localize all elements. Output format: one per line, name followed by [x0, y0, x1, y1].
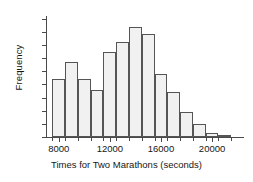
x-tick-mark-minor — [180, 138, 181, 141]
x-tick-mark — [59, 138, 60, 142]
x-tick-label: 20000 — [199, 144, 225, 154]
x-tick-mark-minor — [142, 138, 143, 141]
x-tick-mark-minor — [206, 138, 207, 141]
y-tick-mark — [42, 58, 46, 59]
x-axis-label: Times for Two Marathons (seconds) — [0, 159, 253, 170]
x-tick-mark-minor — [78, 138, 79, 141]
x-axis-tick-labels: 8000120001600020000 — [0, 0, 253, 182]
x-tick-mark-minor — [231, 138, 232, 141]
x-tick-label: 16000 — [148, 144, 174, 154]
x-tick-mark — [212, 138, 213, 142]
x-tick-label: 12000 — [97, 144, 123, 154]
x-tick-mark — [161, 138, 162, 142]
y-tick-mark — [42, 45, 46, 46]
y-tick-mark — [42, 84, 46, 85]
x-tick-mark — [110, 138, 111, 142]
x-tick-mark-minor — [129, 138, 130, 141]
y-tick-mark — [42, 32, 46, 33]
y-tick-mark — [42, 124, 46, 125]
x-tick-mark-minor — [167, 138, 168, 141]
y-tick-mark — [42, 19, 46, 20]
x-tick-label: 8000 — [48, 144, 69, 154]
y-tick-mark — [42, 111, 46, 112]
x-tick-mark-minor — [65, 138, 66, 141]
y-tick-mark — [42, 137, 46, 138]
x-tick-mark-minor — [52, 138, 53, 141]
x-tick-mark-minor — [103, 138, 104, 141]
y-tick-mark — [42, 71, 46, 72]
x-tick-mark-minor — [116, 138, 117, 141]
x-tick-mark-minor — [91, 138, 92, 141]
x-tick-mark-minor — [218, 138, 219, 141]
x-tick-mark-minor — [155, 138, 156, 141]
histogram-figure: Frequency 0102030405060708090 8000120001… — [0, 0, 253, 182]
x-tick-mark-minor — [193, 138, 194, 141]
y-tick-mark — [42, 98, 46, 99]
